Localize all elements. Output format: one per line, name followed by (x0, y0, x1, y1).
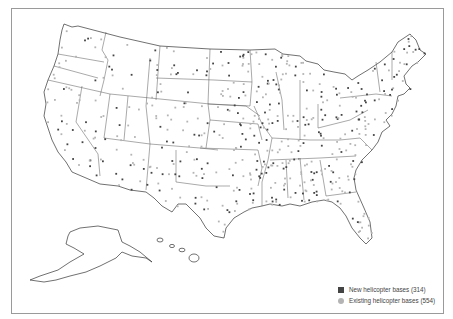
existing-base-marker (374, 119, 376, 121)
existing-base-marker (207, 208, 209, 210)
new-base-marker (235, 200, 237, 202)
existing-base-marker (306, 108, 308, 110)
existing-base-marker (250, 179, 252, 181)
existing-base-marker (66, 30, 68, 32)
existing-base-marker (347, 176, 349, 178)
existing-base-marker (236, 203, 238, 205)
existing-base-marker (277, 115, 279, 117)
existing-base-marker (287, 145, 289, 147)
existing-base-marker (204, 132, 206, 134)
existing-base-marker (223, 123, 225, 125)
existing-base-marker (410, 35, 412, 37)
new-base-marker (195, 203, 197, 205)
existing-base-marker (302, 62, 304, 64)
existing-base-marker (384, 93, 386, 95)
existing-base-marker (90, 37, 92, 39)
new-base-marker (166, 141, 168, 143)
existing-base-marker (71, 89, 73, 91)
new-base-marker (352, 160, 354, 162)
existing-base-marker (293, 115, 295, 117)
new-base-marker (95, 147, 97, 149)
new-base-marker (374, 68, 376, 70)
new-base-marker (96, 175, 98, 177)
new-base-marker (212, 63, 214, 65)
existing-base-marker (292, 121, 294, 123)
existing-base-marker (354, 144, 356, 146)
new-base-marker (271, 197, 273, 199)
new-base-marker (352, 218, 354, 220)
existing-base-marker (220, 93, 222, 95)
existing-base-marker (288, 162, 290, 164)
existing-base-marker (304, 135, 306, 137)
existing-base-marker (89, 160, 91, 162)
existing-base-marker (278, 85, 280, 87)
existing-base-marker (258, 63, 260, 65)
new-base-marker (229, 211, 231, 213)
new-base-marker (408, 38, 410, 40)
existing-base-marker (266, 201, 268, 203)
new-base-marker (253, 135, 255, 137)
existing-base-marker (301, 62, 303, 64)
existing-base-marker (156, 74, 158, 76)
existing-base-marker (332, 183, 334, 185)
existing-base-marker (78, 94, 80, 96)
new-base-marker (361, 88, 363, 90)
new-base-marker (313, 192, 315, 194)
new-base-marker (351, 130, 353, 132)
new-base-marker (280, 57, 282, 59)
new-base-marker (384, 64, 386, 66)
existing-base-marker (298, 158, 300, 160)
existing-base-marker (66, 123, 68, 125)
new-base-marker (389, 94, 391, 96)
new-base-marker (364, 100, 366, 102)
new-base-marker (295, 66, 297, 68)
existing-base-marker (397, 100, 399, 102)
existing-base-marker (332, 153, 334, 155)
existing-base-marker (243, 83, 245, 85)
existing-base-marker (326, 99, 328, 101)
existing-base-marker (271, 150, 273, 152)
existing-base-marker (197, 118, 199, 120)
new-base-marker (201, 168, 203, 170)
existing-base-marker (316, 201, 318, 203)
existing-base-marker (359, 133, 361, 135)
existing-base-marker (348, 179, 350, 181)
new-base-marker (130, 164, 132, 166)
existing-base-marker (166, 47, 168, 49)
existing-base-marker (173, 163, 175, 165)
new-base-marker (178, 175, 180, 177)
existing-base-marker (170, 119, 172, 121)
existing-base-marker (95, 100, 97, 102)
new-base-marker (206, 74, 208, 76)
existing-base-marker (320, 170, 322, 172)
existing-base-marker (66, 86, 68, 88)
existing-base-marker (203, 173, 205, 175)
new-base-marker (403, 48, 405, 50)
new-base-marker (154, 50, 156, 52)
existing-base-marker (391, 115, 393, 117)
existing-base-marker (94, 137, 96, 139)
existing-base-marker (304, 165, 306, 167)
new-base-marker (240, 124, 242, 126)
existing-base-marker (233, 190, 235, 192)
existing-base-marker (274, 182, 276, 184)
new-base-marker (293, 159, 295, 161)
new-base-marker (294, 75, 296, 77)
existing-base-marker (116, 149, 118, 151)
existing-base-marker (103, 77, 105, 79)
existing-base-marker (344, 133, 346, 135)
existing-base-marker (321, 174, 323, 176)
new-base-marker (301, 200, 303, 202)
new-base-marker (306, 90, 308, 92)
existing-base-marker (285, 128, 287, 130)
new-base-marker (337, 201, 339, 203)
new-base-marker (347, 87, 349, 89)
existing-base-marker (171, 188, 173, 190)
new-base-marker (116, 107, 118, 109)
new-base-marker (275, 199, 277, 201)
new-base-marker (353, 178, 355, 180)
existing-base-marker (217, 106, 219, 108)
new-base-marker (232, 174, 234, 176)
state-borders (48, 32, 392, 206)
existing-base-marker (201, 105, 203, 107)
